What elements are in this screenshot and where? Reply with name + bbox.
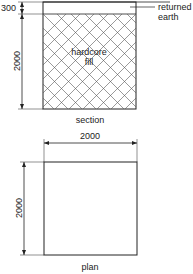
dim-300-label: 300 bbox=[1, 3, 16, 13]
dim-depth-label: 2000 bbox=[12, 46, 22, 76]
hardcore-label-2: fill bbox=[64, 57, 114, 67]
plan-title: plan bbox=[65, 262, 115, 272]
plan-drawing bbox=[20, 139, 137, 255]
returned-earth-label-1: returned bbox=[158, 2, 192, 12]
plan-box bbox=[44, 162, 137, 255]
plan-width-label: 2000 bbox=[65, 131, 115, 141]
hardcore-label-1: hardcore bbox=[64, 47, 114, 57]
section-title: section bbox=[55, 115, 125, 125]
returned-earth-label-2: earth bbox=[158, 12, 179, 22]
plan-length-label: 2000 bbox=[14, 193, 24, 223]
